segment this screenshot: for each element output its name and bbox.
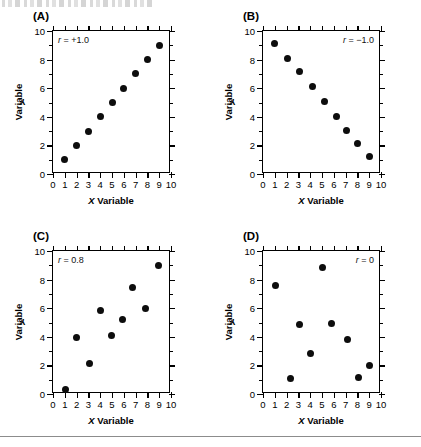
x-tick-d (263, 392, 264, 398)
y-tick-right-b (379, 174, 385, 175)
x-tick-top-a (65, 26, 66, 32)
x-tick-label-b: 10 (376, 179, 387, 190)
x-tick-top-c (77, 246, 78, 252)
x-tick-c (77, 392, 78, 398)
x-tick-label-d: 6 (331, 399, 336, 410)
y-tick-b (259, 160, 263, 161)
x-tick-label-d: 0 (260, 399, 265, 410)
data-point (61, 156, 68, 163)
x-tick-top-d (334, 246, 335, 252)
x-tick-label-a: 5 (109, 179, 114, 190)
y-tick-right-c (169, 280, 175, 281)
y-tick-label-d: 6 (250, 303, 255, 314)
y-tick-right-d (379, 380, 383, 381)
x-tick-a (124, 172, 125, 178)
x-tick-label-b: 1 (272, 179, 277, 190)
y-tick-b (257, 117, 263, 118)
y-tick-right-d (379, 308, 385, 309)
x-tick-top-b (322, 26, 323, 32)
x-tick-label-d: 5 (319, 399, 324, 410)
x-tick-top-d (322, 246, 323, 252)
data-point (109, 99, 116, 106)
y-tick-right-a (169, 145, 175, 146)
y-axis-title-a: Y Variable (6, 30, 20, 173)
correlation-annotation-d: r = 0 (356, 255, 374, 265)
y-tick-a (47, 145, 53, 146)
x-tick-label-d: 7 (343, 399, 348, 410)
data-point (120, 85, 127, 92)
y-tick-label-c: 10 (34, 246, 45, 257)
y-tick-label-c: 6 (40, 303, 45, 314)
y-tick-right-d (379, 251, 385, 252)
y-tick-right-c (169, 251, 175, 252)
correlation-annotation-a: r = +1.0 (58, 35, 89, 45)
y-tick-label-d: 10 (244, 246, 255, 257)
x-tick-b (298, 172, 299, 178)
x-tick-top-b (369, 26, 370, 32)
data-point (321, 98, 328, 105)
y-tick-label-b: 0 (250, 169, 255, 180)
x-tick-b (334, 172, 335, 178)
y-tick-right-d (379, 280, 385, 281)
x-tick-label-c: 4 (98, 399, 103, 410)
panel-c: (C)r = 0.80123456789100246810X VariableY… (0, 228, 210, 443)
y-tick-label-b: 4 (250, 111, 255, 122)
y-tick-right-d (379, 265, 383, 266)
y-tick-d (259, 380, 263, 381)
x-tick-b (275, 172, 276, 178)
y-tick-right-c (169, 337, 175, 338)
x-tick-top-c (147, 246, 148, 252)
y-tick-a (47, 60, 53, 61)
x-tick-label-a: 4 (98, 179, 103, 190)
y-tick-label-a: 2 (40, 140, 45, 151)
x-tick-label-c: 5 (109, 399, 114, 410)
data-point (366, 362, 373, 369)
data-point (333, 113, 340, 120)
y-tick-d (259, 351, 263, 352)
x-tick-top-c (159, 246, 160, 252)
panel-b: (B)r = −1.00123456789100246810X Variable… (210, 8, 420, 223)
x-tick-label-c: 3 (86, 399, 91, 410)
y-tick-right-b (379, 160, 383, 161)
y-tick-right-a (169, 103, 173, 104)
x-tick-d (298, 392, 299, 398)
y-tick-a (49, 45, 53, 46)
y-tick-right-d (379, 323, 383, 324)
x-tick-label-b: 4 (308, 179, 313, 190)
y-tick-right-b (379, 88, 385, 89)
x-tick-c (159, 392, 160, 398)
x-tick-c (88, 392, 89, 398)
data-point (156, 42, 163, 49)
data-point (155, 262, 162, 269)
y-tick-c (47, 280, 53, 281)
y-tick-right-b (379, 74, 383, 75)
y-tick-b (259, 45, 263, 46)
x-tick-a (112, 172, 113, 178)
y-tick-a (49, 103, 53, 104)
x-axis-title-a: X Variable (52, 195, 170, 206)
x-tick-top-b (298, 26, 299, 32)
data-point (85, 128, 92, 135)
x-tick-top-a (136, 26, 137, 32)
y-tick-right-c (169, 323, 173, 324)
y-tick-right-c (169, 308, 175, 309)
x-tick-b (357, 172, 358, 178)
x-tick-a (65, 172, 66, 178)
x-tick-a (136, 172, 137, 178)
x-tick-top-a (53, 26, 54, 32)
y-tick-label-c: 4 (40, 331, 45, 342)
y-tick-label-a: 4 (40, 111, 45, 122)
x-tick-top-c (100, 246, 101, 252)
x-tick-label-b: 6 (331, 179, 336, 190)
x-tick-d (334, 392, 335, 398)
y-tick-b (259, 103, 263, 104)
x-tick-b (263, 172, 264, 178)
y-tick-right-a (169, 88, 175, 89)
plot-area-c: r = 0.80123456789100246810 (52, 250, 170, 393)
x-tick-label-a: 7 (133, 179, 138, 190)
y-tick-label-a: 6 (40, 83, 45, 94)
y-tick-right-a (169, 117, 175, 118)
data-point (73, 142, 80, 149)
x-tick-label-b: 9 (367, 179, 372, 190)
plot-area-b: r = −1.00123456789100246810 (262, 30, 380, 173)
